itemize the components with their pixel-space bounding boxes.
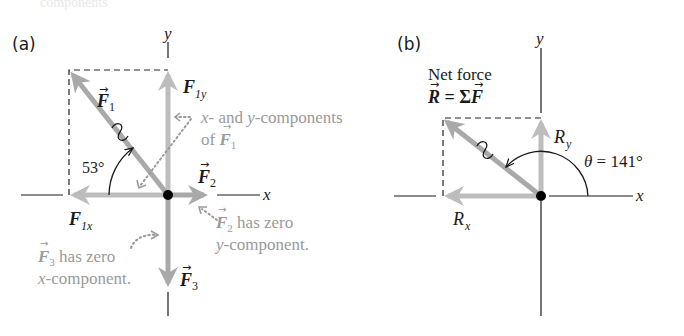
svg-text:F2 has zero: F2 has zero [215, 213, 293, 234]
svg-text:x- and y-components: x- and y-components [200, 108, 343, 127]
label-f2: F 2 → [197, 158, 216, 190]
svg-text:of F1: of F1 [201, 130, 236, 151]
vector-r [447, 122, 541, 196]
callout-components-text: x- and y-components of F1 → [200, 108, 343, 151]
label-f1x: F 1x [68, 209, 93, 233]
vector-f1 [73, 75, 168, 195]
svg-text:→: → [182, 261, 191, 274]
svg-text:→: → [99, 83, 108, 96]
callout-arrow-f3 [131, 235, 156, 248]
label-ry: R y [553, 127, 572, 151]
svg-text:2: 2 [210, 176, 216, 190]
svg-text:→: → [430, 78, 439, 91]
y-axis-label: y [162, 24, 172, 43]
svg-text:F: F [68, 209, 81, 229]
label-f1y: F 1y [182, 77, 207, 101]
angle-label-53: 53° [82, 159, 104, 176]
svg-text:R: R [553, 127, 565, 147]
svg-text:x-component.: x-component. [37, 269, 131, 288]
angle-arc-53 [109, 148, 133, 195]
callout-f2-text: F2 has zero → y-component. [214, 204, 309, 254]
angle-arc-141 [506, 151, 588, 196]
cutoff-top-text: components [40, 0, 108, 10]
x-axis-label-b: x [635, 186, 644, 205]
callout-f3-text: F3 has zero → x-component. [37, 238, 131, 288]
panel-b: (b) y x θ = 141° Net force R = ΣF [394, 29, 644, 316]
force-diagram: components (a) y x 53° F 1 → [0, 0, 684, 336]
svg-text:y-component.: y-component. [214, 235, 309, 254]
y-axis-label-b: y [534, 29, 544, 48]
svg-text:F3 has zero: F3 has zero [37, 247, 115, 268]
svg-text:→: → [223, 121, 231, 132]
origin-dot-b [536, 191, 546, 201]
svg-text:θ = 141°: θ = 141° [584, 152, 643, 171]
label-f1: F 1 → [96, 83, 115, 114]
svg-text:3: 3 [192, 279, 198, 293]
svg-text:→: → [40, 238, 48, 249]
label-rx: R x [452, 209, 471, 233]
label-f3: F 3 → [179, 261, 198, 293]
angle-label-141: θ = 141° [584, 152, 643, 171]
svg-text:x: x [464, 219, 471, 233]
panel-b-label: (b) [397, 34, 421, 54]
svg-text:→: → [200, 158, 209, 171]
svg-text:R: R [452, 209, 464, 229]
callout-arrow-f2 [202, 209, 217, 220]
svg-text:y: y [565, 137, 572, 151]
origin-dot [163, 190, 173, 200]
svg-text:→: → [474, 78, 483, 91]
svg-text:1y: 1y [195, 87, 207, 101]
x-axis-label: x [262, 185, 271, 204]
panel-a-label: (a) [12, 34, 36, 54]
panel-a: (a) y x 53° F 1 → F 1 [12, 24, 343, 316]
svg-text:1: 1 [109, 100, 115, 114]
svg-text:F: F [182, 77, 195, 97]
svg-text:1x: 1x [81, 219, 93, 233]
svg-text:→: → [218, 204, 226, 215]
